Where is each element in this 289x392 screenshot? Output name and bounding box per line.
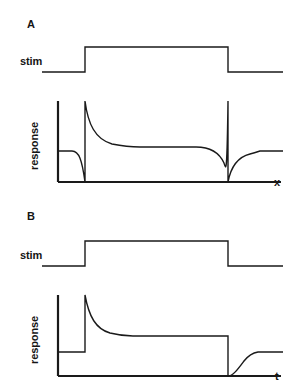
panel-a: A stim response x bbox=[0, 0, 289, 196]
panel-a-traces bbox=[0, 0, 289, 196]
panel-b-response-trace bbox=[58, 295, 283, 376]
panel-a-stim-trace bbox=[42, 47, 283, 72]
panel-b-traces bbox=[0, 196, 289, 392]
figure-container: A stim response x B stim response t bbox=[0, 0, 289, 392]
panel-b-stim-trace bbox=[42, 241, 283, 266]
panel-b: B stim response t bbox=[0, 196, 289, 392]
panel-a-response-trace bbox=[58, 101, 283, 182]
